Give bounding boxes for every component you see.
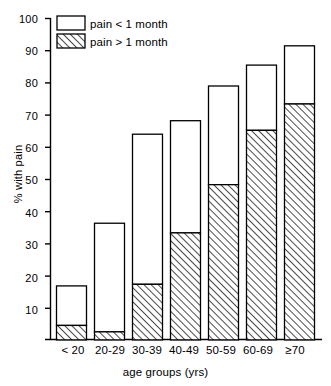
- bar-group-3: [171, 121, 201, 340]
- bar-segment-pain-over-1-month-0: [57, 325, 87, 339]
- legend-swatch-hatched: [57, 34, 85, 48]
- bars: [57, 46, 315, 340]
- bar-group-0: [57, 286, 87, 340]
- bar-group-6: [285, 46, 315, 340]
- bar-segment-pain-over-1-month-5: [247, 130, 277, 340]
- bar-group-5: [247, 65, 277, 340]
- bar-segment-pain-over-1-month-2: [133, 284, 163, 340]
- bar-segment-pain-under-1-month-1: [95, 223, 125, 332]
- y-axis-ticks: [45, 19, 51, 309]
- bar-segment-pain-over-1-month-6: [285, 104, 315, 340]
- bar-segment-pain-over-1-month-1: [95, 332, 125, 340]
- legend-swatch-white: [57, 16, 85, 30]
- bar-group-1: [95, 223, 125, 340]
- bar-group-2: [133, 134, 163, 340]
- bar-segment-pain-under-1-month-3: [171, 121, 201, 233]
- bar-segment-pain-under-1-month-5: [247, 65, 277, 130]
- bar-segment-pain-over-1-month-3: [171, 233, 201, 340]
- chart-plot-area: [0, 0, 331, 386]
- chart-figure: % with pain 100 90 80 70 60 50 40 30 20 …: [0, 0, 331, 386]
- bar-segment-pain-under-1-month-2: [133, 134, 163, 284]
- bar-group-4: [209, 86, 239, 340]
- bar-segment-pain-under-1-month-0: [57, 286, 87, 326]
- bar-segment-pain-over-1-month-4: [209, 185, 239, 340]
- bar-segment-pain-under-1-month-6: [285, 46, 315, 104]
- bar-segment-pain-under-1-month-4: [209, 86, 239, 185]
